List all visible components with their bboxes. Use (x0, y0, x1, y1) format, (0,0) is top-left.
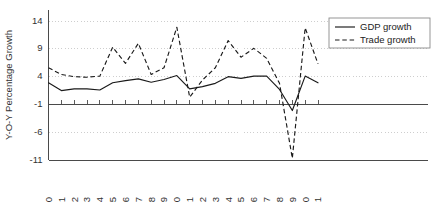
x-tick-label-1994: 1994 (94, 197, 105, 202)
chart-legend: GDP growthTrade growth (329, 18, 430, 48)
x-tick-label-2002: 2002 (197, 197, 208, 202)
x-tick-label-2011: 2011 (312, 197, 323, 202)
x-tick-label-2001: 2001 (184, 197, 195, 202)
y-tick-label-14: 14 (32, 15, 43, 26)
y-axis-title: Y-O-Y Percentage Growth (3, 30, 14, 140)
x-tick-label-1991: 1991 (56, 197, 67, 202)
y-tick-label--1: -1 (34, 98, 42, 109)
y-tick-label-4: 4 (37, 70, 42, 81)
line-chart-figure: 1494-1-6-11 1990199119921993199419951996… (0, 0, 434, 202)
chart-container: 1494-1-6-11 1990199119921993199419951996… (0, 0, 434, 202)
x-tick-label-1995: 1995 (107, 197, 118, 202)
x-tick-label-1990: 1990 (43, 197, 54, 202)
data-series (49, 27, 319, 158)
x-tick-label-2000: 2000 (171, 197, 182, 202)
x-tick-label-2003: 2003 (210, 197, 221, 202)
x-tick-label-2007: 2007 (261, 197, 272, 202)
legend-label-trade-growth: Trade growth (360, 34, 416, 45)
x-tick-label-2009: 2009 (287, 197, 298, 202)
y-axis-title-label: Y-O-Y Percentage Growth (3, 30, 14, 140)
y-tick-label--6: -6 (34, 126, 42, 137)
y-tick-label--11: -11 (29, 154, 42, 165)
y-tick-label-9: 9 (37, 42, 42, 53)
x-tick-label-2004: 2004 (223, 197, 234, 202)
x-tick-label-1997: 1997 (133, 197, 144, 202)
y-axis-tick-labels: 1494-1-6-11 (29, 15, 42, 165)
x-tick-marks (49, 100, 319, 104)
legend-label-gdp-growth: GDP growth (360, 21, 412, 32)
x-tick-label-2006: 2006 (248, 197, 259, 202)
x-tick-label-1999: 1999 (158, 197, 169, 202)
series-line-trade-growth (49, 27, 319, 158)
x-tick-label-1998: 1998 (146, 197, 157, 202)
x-tick-label-1996: 1996 (120, 197, 131, 202)
x-axis-tick-labels: 1990199119921993199419951996199719981999… (43, 197, 324, 202)
x-tick-label-2008: 2008 (274, 197, 285, 202)
x-tick-label-2005: 2005 (235, 197, 246, 202)
x-tick-label-2010: 2010 (300, 197, 311, 202)
x-tick-label-1993: 1993 (81, 197, 92, 202)
x-tick-label-1992: 1992 (69, 197, 80, 202)
